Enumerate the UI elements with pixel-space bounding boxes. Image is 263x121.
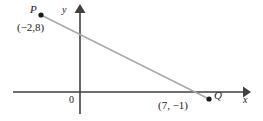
x-axis-label: x xyxy=(243,95,247,105)
y-axis-label: y xyxy=(62,5,66,15)
point-label-p: P xyxy=(30,4,37,15)
point-marker-p xyxy=(38,12,43,17)
point-label-q: Q xyxy=(214,90,222,101)
line-through-p-and-q xyxy=(41,15,209,99)
point-coordinates-p: (−2,8) xyxy=(17,22,44,33)
origin-label: 0 xyxy=(69,95,74,105)
y-axis-arrowhead-icon xyxy=(75,4,86,13)
graph-figure: P (−2,8) Q (7, −1) y x 0 xyxy=(0,0,263,121)
point-coordinates-q: (7, −1) xyxy=(158,100,188,111)
point-marker-q xyxy=(206,96,211,101)
coordinate-plane-svg xyxy=(0,0,263,121)
